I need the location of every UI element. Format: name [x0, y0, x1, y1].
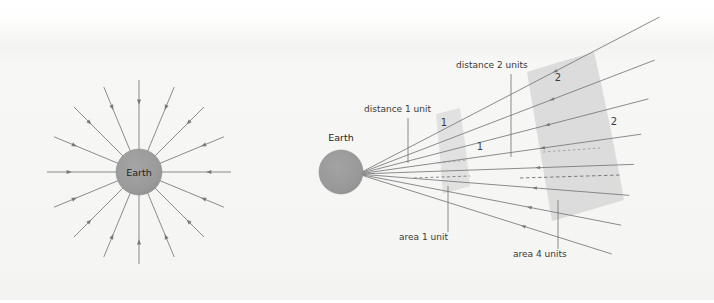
- dimension-label-near-patch-top: 1: [441, 117, 447, 128]
- label-distance-1-unit: distance 1 unit: [364, 104, 431, 114]
- label-area-1-unit: area 1 unit: [399, 232, 448, 242]
- earth-label-left: Earth: [126, 167, 151, 178]
- figure-canvas: Earth Earth distance 1 unit: [0, 0, 714, 303]
- radial-field-diagram: Earth: [47, 80, 231, 264]
- inverse-square-law-figure: Earth Earth distance 1 unit: [0, 0, 714, 303]
- earth-label-right: Earth: [328, 132, 353, 143]
- earth-circle-right: [319, 150, 363, 194]
- label-area-4-units: area 4 units: [513, 249, 567, 259]
- label-distance-2-units: distance 2 units: [456, 60, 528, 70]
- dimension-label-near-patch-side: 1: [477, 141, 483, 152]
- dimension-label-far-patch-top: 2: [555, 72, 561, 83]
- dimension-label-far-patch-side: 2: [611, 116, 617, 127]
